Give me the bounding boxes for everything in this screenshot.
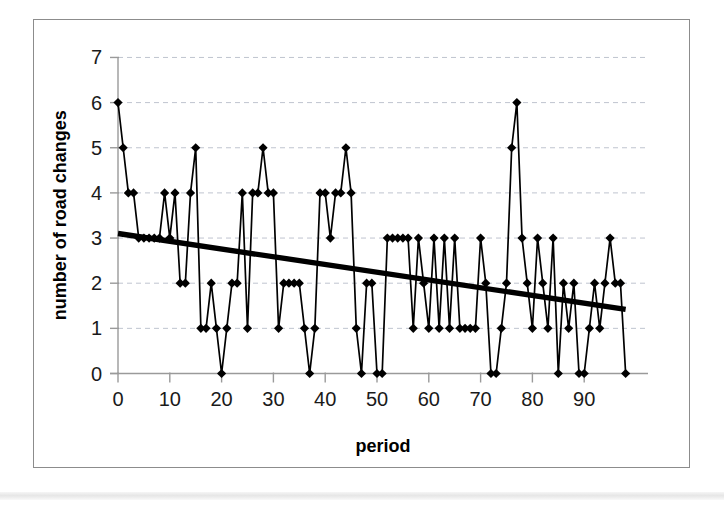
data-point-marker [595, 324, 604, 333]
data-point-marker [321, 188, 330, 197]
scan-shadow-strip [0, 492, 724, 500]
data-point-marker [129, 188, 138, 197]
data-point-marker [549, 233, 558, 242]
data-point-marker [564, 324, 573, 333]
data-point-marker [471, 324, 480, 333]
data-point-marker [295, 279, 304, 288]
y-tick-label: 5 [91, 137, 102, 159]
data-point-marker [207, 279, 216, 288]
y-tick-label: 7 [91, 46, 102, 68]
data-point-marker [367, 279, 376, 288]
x-tick-label: 60 [418, 388, 440, 410]
y-tick-label: 6 [91, 92, 102, 114]
data-point-marker [274, 324, 283, 333]
data-point-marker [523, 279, 532, 288]
data-point-marker [517, 233, 526, 242]
data-point-marker [476, 233, 485, 242]
data-point-marker [414, 233, 423, 242]
data-point-marker [435, 324, 444, 333]
data-point-marker [569, 279, 578, 288]
y-axis-title: number of road changes [50, 110, 70, 320]
data-point-marker [621, 369, 630, 378]
data-point-marker [336, 188, 345, 197]
y-tick-label: 3 [91, 227, 102, 249]
data-point-marker [357, 369, 366, 378]
data-point-marker [528, 324, 537, 333]
page-root: 01234567 0102030405060708090 number of r… [0, 0, 724, 515]
data-point-marker [119, 143, 128, 152]
data-point-marker [409, 324, 418, 333]
x-tick-label: 70 [469, 388, 491, 410]
x-tick-label: 30 [262, 388, 284, 410]
data-point-marker [341, 143, 350, 152]
data-point-marker [497, 324, 506, 333]
data-point-marker [543, 324, 552, 333]
data-point-marker [326, 233, 335, 242]
x-tick-labels: 0102030405060708090 [112, 388, 595, 410]
data-point-marker [347, 188, 356, 197]
data-point-marker [580, 369, 589, 378]
y-tick-label: 1 [91, 317, 102, 339]
data-point-marker [217, 369, 226, 378]
data-point-marker [502, 279, 511, 288]
y-tick-label: 2 [91, 272, 102, 294]
data-point-marker [113, 98, 122, 107]
data-point-marker [253, 188, 262, 197]
x-tick-label: 80 [521, 388, 543, 410]
page-bottom-margin [0, 500, 724, 515]
data-point-marker [450, 233, 459, 242]
data-point-marker [403, 233, 412, 242]
y-tick-label: 4 [91, 182, 102, 204]
data-point-marker [507, 143, 516, 152]
data-point-marker [429, 233, 438, 242]
data-point-marker [492, 369, 501, 378]
chart-svg: 01234567 0102030405060708090 number of r… [0, 0, 724, 515]
data-point-marker [170, 188, 179, 197]
x-tick-label: 0 [112, 388, 123, 410]
data-point-marker [600, 279, 609, 288]
data-point-marker [233, 279, 242, 288]
x-tick-label: 10 [159, 388, 181, 410]
x-tick-label: 20 [210, 388, 232, 410]
data-point-marker [300, 324, 309, 333]
data-point-marker [186, 188, 195, 197]
x-tick-label: 40 [314, 388, 336, 410]
data-point-marker [512, 98, 521, 107]
data-point-marker [243, 324, 252, 333]
data-point-marker [352, 324, 361, 333]
data-point-marker [201, 324, 210, 333]
data-point-marker [269, 188, 278, 197]
x-axis-title: period [355, 436, 410, 456]
data-point-marker [191, 143, 200, 152]
chart-canvas: 01234567 0102030405060708090 number of r… [0, 0, 724, 515]
data-point-marker [222, 324, 231, 333]
y-tick-labels: 01234567 [91, 46, 102, 384]
x-tick-label: 50 [366, 388, 388, 410]
data-point-marker [559, 279, 568, 288]
data-point-marker [554, 369, 563, 378]
data-point-marker [305, 369, 314, 378]
data-point-marker [378, 369, 387, 378]
data-point-marker [445, 324, 454, 333]
data-point-marker [181, 279, 190, 288]
data-point-marker [424, 324, 433, 333]
data-point-marker [258, 143, 267, 152]
data-point-marker [590, 279, 599, 288]
x-tick-label: 90 [573, 388, 595, 410]
data-point-marker [538, 279, 547, 288]
data-point-marker [606, 233, 615, 242]
data-point-marker [440, 233, 449, 242]
data-point-marker [212, 324, 221, 333]
data-point-marker [533, 233, 542, 242]
data-point-marker [160, 188, 169, 197]
data-point-marker [238, 188, 247, 197]
data-point-marker [616, 279, 625, 288]
data-point-marker [585, 324, 594, 333]
y-tick-label: 0 [91, 363, 102, 385]
data-point-marker [310, 324, 319, 333]
